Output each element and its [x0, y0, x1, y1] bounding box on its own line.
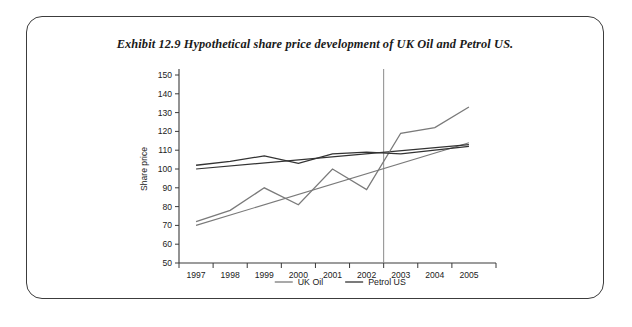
legend-label: UK Oil — [298, 277, 323, 287]
figure-frame: Exhibit 12.9 Hypothetical share price de… — [26, 16, 604, 299]
x-tick-label: 2005 — [459, 270, 478, 280]
y-tick-label: 60 — [162, 239, 172, 249]
y-tick-label: 140 — [158, 89, 173, 99]
x-tick-label: 2004 — [425, 270, 444, 280]
y-tick-label: 100 — [158, 164, 173, 174]
y-axis: 5060708090100110120130140150 — [158, 69, 179, 268]
x-tick-label: 1997 — [186, 270, 205, 280]
x-axis: 199719981999200020012002200320042005 — [179, 263, 496, 280]
y-tick-label: 130 — [158, 108, 173, 118]
y-tick-label: 90 — [162, 183, 172, 193]
y-tick-label: 110 — [158, 145, 172, 155]
y-tick-label: 50 — [162, 258, 172, 268]
series-line — [196, 107, 469, 222]
x-tick-label: 1998 — [221, 270, 240, 280]
y-axis-title-group: Share price — [139, 147, 149, 191]
y-tick-label: 80 — [162, 202, 172, 212]
y-axis-title: Share price — [139, 147, 149, 191]
trend-line — [196, 143, 469, 226]
x-tick-label: 2001 — [323, 270, 342, 280]
y-tick-label: 70 — [162, 220, 172, 230]
y-tick-label: 150 — [158, 70, 173, 80]
y-tick-label: 120 — [158, 126, 173, 136]
series-line — [196, 146, 469, 165]
trend-lines-group — [196, 143, 469, 226]
x-tick-label: 1999 — [255, 270, 274, 280]
line-chart: 5060708090100110120130140150 19971998199… — [27, 17, 605, 300]
legend-label: Petrol US — [368, 277, 406, 287]
trend-line — [196, 145, 469, 169]
series-lines-group — [196, 107, 469, 222]
chart-plot-area: 5060708090100110120130140150 19971998199… — [27, 17, 605, 300]
